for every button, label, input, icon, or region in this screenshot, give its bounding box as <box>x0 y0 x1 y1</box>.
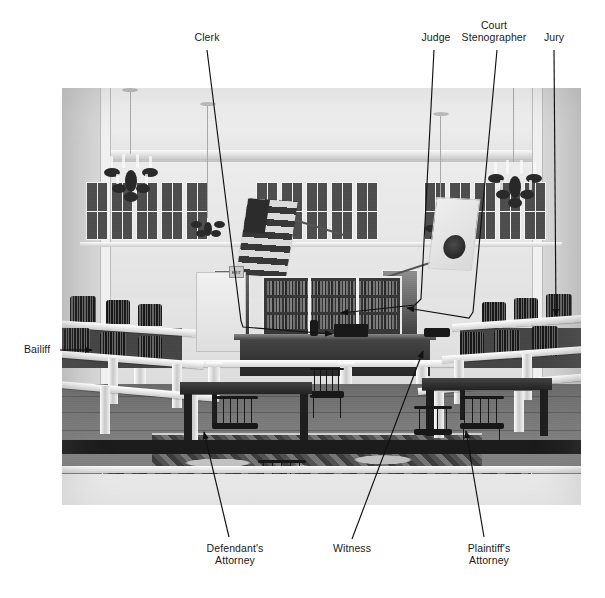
ceiling-medallion <box>433 112 449 116</box>
chandelier-chain <box>130 88 131 154</box>
bench-object <box>424 328 450 337</box>
gallery-chair <box>106 300 130 324</box>
label-witness: Witness <box>333 543 371 555</box>
bench-papers <box>334 324 368 337</box>
gallery-chair <box>138 304 162 326</box>
law-bookcase <box>262 276 402 342</box>
label-court-stenographer: Court Stenographer <box>462 20 527 43</box>
label-defendants-attorney: Defendant's Attorney <box>207 543 264 566</box>
gallery-rail-post <box>514 384 524 432</box>
rear-door <box>196 272 246 352</box>
label-plaintiffs-attorney: Plaintiff's Attorney <box>468 543 511 566</box>
chandelier-center-left <box>190 216 226 242</box>
chandelier-left <box>102 152 160 206</box>
chandelier-chain <box>207 106 208 218</box>
foreground-floor <box>62 474 581 505</box>
ceiling-medallion <box>200 102 216 106</box>
chair-plaintiff <box>460 396 504 444</box>
label-judge: Judge <box>421 32 450 44</box>
gallery-chair <box>70 296 96 322</box>
chandelier-right <box>486 158 544 212</box>
window-pane <box>161 182 183 240</box>
rail-baluster-cap <box>414 362 431 367</box>
courtroom-photograph: EXIT <box>62 88 581 505</box>
chandelier-chain <box>513 88 514 162</box>
courtroom-annotated-figure: EXIT <box>0 0 605 598</box>
windsor-chair-center <box>310 368 344 418</box>
foreground-white-rail <box>62 466 581 473</box>
ceiling-medallion <box>122 88 138 92</box>
chair-defendant <box>212 396 258 442</box>
label-clerk: Clerk <box>194 32 219 44</box>
window-pane <box>356 182 378 240</box>
foreground-rail-bar <box>62 440 581 454</box>
window-pane <box>306 182 328 240</box>
label-jury: Jury <box>544 32 564 44</box>
desk-lamp <box>310 320 318 336</box>
rail-baluster-cap <box>206 362 223 367</box>
label-bailiff: Bailiff <box>24 344 50 356</box>
window-sill <box>80 242 562 247</box>
rail-baluster-cap <box>338 362 355 367</box>
left-gallery-post <box>100 386 110 434</box>
exit-sign: EXIT <box>229 266 244 278</box>
exit-sign-label: EXIT <box>230 267 243 279</box>
state-flag <box>428 197 481 271</box>
